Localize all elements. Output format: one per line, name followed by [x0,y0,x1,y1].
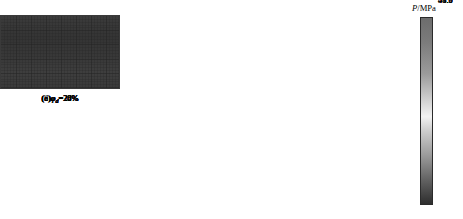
panel-f-plot [0,15,120,89]
colorbar [420,17,433,205]
panel-f: (f)φd=30% [0,15,120,107]
colorbar-unit: /MPa [417,3,436,13]
figure-heatmap-panels: (a)φd=20%(b)φd=22%(c)φd=24%(d)φd=26%(e)φ… [0,0,463,219]
colorbar-gradient [421,18,432,204]
panel-f-caption: (f)φd=30% [0,95,120,103]
colorbar-tick-43.1: 43.1 [438,0,453,5]
panel-f-mesh [1,16,119,88]
panel-grid: (a)φd=20%(b)φd=22%(c)φd=24%(d)φd=26%(e)φ… [0,0,400,219]
colorbar-title: P/MPa [412,3,436,13]
colorbar-group: P/MPa 54.851.949.046.043.1 [406,0,463,219]
